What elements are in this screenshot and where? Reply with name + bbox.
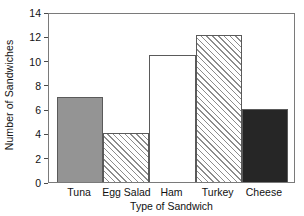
x-axis-tick-label: Tuna — [56, 186, 102, 198]
y-axis-tick-label: 4 — [35, 129, 44, 139]
y-axis-title-label: Number of Sandwiches — [3, 40, 15, 151]
bar-chart: Number of Sandwiches 02468101214 TunaEgg… — [0, 0, 304, 216]
bars-layer — [49, 14, 294, 182]
y-axis-tick-label: 8 — [35, 81, 44, 91]
y-axis-tick-label: 10 — [29, 57, 44, 67]
plot-area — [48, 13, 295, 183]
x-axis-tick-label: Egg Salad — [102, 186, 148, 198]
x-axis-tick-label: Ham — [148, 186, 194, 198]
x-axis-tick-label: Turkey — [195, 186, 241, 198]
y-axis-tick-label: 6 — [35, 105, 44, 115]
y-axis-tick-label: 14 — [29, 8, 44, 18]
bar-ham — [149, 55, 195, 183]
x-axis-tick-labels: TunaEgg SaladHamTurkeyCheese — [48, 186, 295, 200]
y-axis-title: Number of Sandwiches — [0, 0, 18, 190]
bar-turkey — [196, 35, 242, 182]
bar-tuna — [57, 97, 103, 182]
y-axis-ticks: 02468101214 — [18, 13, 48, 183]
x-axis-tick-label: Cheese — [241, 186, 287, 198]
x-axis-title: Type of Sandwich — [48, 200, 295, 212]
bar-egg-salad — [103, 133, 149, 182]
y-axis-tick-label: 0 — [35, 178, 44, 188]
y-axis-tick-label: 2 — [35, 154, 44, 164]
y-axis-tick-label: 12 — [29, 32, 44, 42]
bar-cheese — [242, 109, 288, 182]
